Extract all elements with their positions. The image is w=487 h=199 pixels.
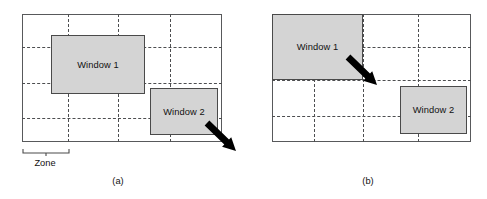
window-1-panel-a[interactable]: Window 1 [51, 35, 145, 94]
zone-bracket-shape [23, 149, 69, 156]
zone-gridline-vertical [363, 14, 364, 142]
window-1-panel-b[interactable]: Window 1 [272, 14, 363, 80]
window-2-panel-b-label: Window 2 [413, 105, 455, 115]
panel-b: Window 1 Window 2 [272, 14, 471, 142]
caption-panel-b: (b) [348, 176, 388, 186]
window-1-panel-b-label: Window 1 [297, 42, 339, 52]
zone-label: Zone [22, 158, 68, 168]
window-1-panel-a-label: Window 1 [77, 60, 119, 70]
figure-window-zones: Window 1 Window 2 Zone Window 1 Window 2… [0, 0, 487, 199]
window-2-panel-a[interactable]: Window 2 [150, 88, 218, 135]
window-2-panel-a-label: Window 2 [163, 107, 205, 117]
window-2-panel-b[interactable]: Window 2 [400, 86, 467, 134]
zone-gridline-horizontal [272, 80, 471, 81]
panel-a: Window 1 Window 2 Zone [22, 14, 222, 142]
caption-panel-a: (a) [98, 176, 138, 186]
